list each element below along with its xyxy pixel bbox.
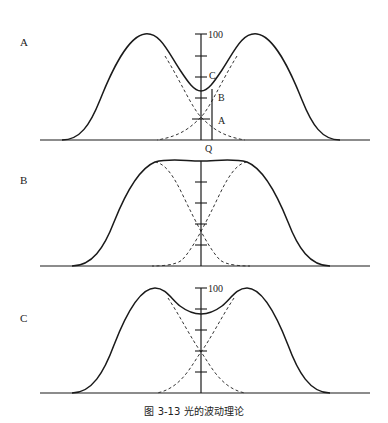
panel-c: 100 (40, 283, 370, 393)
panel-c-axis-max: 100 (208, 283, 223, 294)
panel-a-point-a: A (218, 115, 226, 126)
wave-diagram: 100 C B A Q 100 (0, 0, 388, 423)
panel-b (40, 160, 370, 266)
panel-b-right-component (152, 162, 247, 266)
panel-a-point-c: C (209, 70, 216, 81)
panel-c-right-component (157, 298, 234, 393)
figure-caption: 图 3-13 光的波动理论 (0, 403, 388, 418)
panel-a-point-b: B (218, 92, 225, 103)
panel-a: 100 C B A Q (40, 29, 370, 154)
panel-b-left-component (155, 162, 250, 266)
panel-c-left-component (168, 298, 245, 393)
panel-a-axis-max: 100 (208, 29, 223, 40)
panel-a-point-q: Q (205, 143, 213, 154)
